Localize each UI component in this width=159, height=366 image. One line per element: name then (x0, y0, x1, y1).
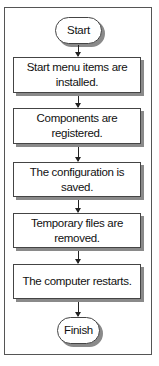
step-start-menu-installed: Start menu items are installed. (13, 57, 141, 93)
arrow-connector (78, 251, 79, 263)
step-temp-files-removed: Temporary files are removed. (13, 213, 141, 248)
step-components-registered: Components are registered. (13, 108, 141, 144)
finish-terminal: Finish (57, 317, 100, 344)
arrow-connector (78, 200, 79, 212)
step-computer-restarts: The computer restarts. (13, 264, 141, 299)
start-terminal: Start (55, 17, 102, 44)
arrow-connector (78, 302, 79, 316)
arrow-connector (78, 147, 79, 161)
arrow-connector (78, 96, 79, 107)
step-configuration-saved: The configuration is saved. (13, 162, 141, 197)
arrow-connector (78, 45, 79, 56)
